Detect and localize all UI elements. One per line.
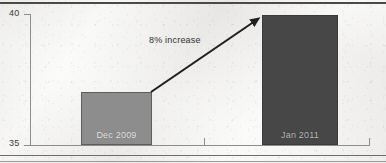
bar-label-jan-2011: Jan 2011 xyxy=(263,130,337,140)
annotation-increase-label: 8% increase xyxy=(149,35,201,45)
x-axis-tick-middle xyxy=(204,138,205,146)
chart-screenshot: 40 35 Dec 2009 Jan 2011 8% increase xyxy=(0,0,386,163)
y-axis-label-min: 35 xyxy=(9,138,19,148)
y-axis-line xyxy=(30,14,31,146)
bar-dec-2009: Dec 2009 xyxy=(81,92,152,145)
x-axis-tick-end xyxy=(369,138,370,146)
x-axis-tick-start xyxy=(30,138,31,146)
y-axis-tick-top xyxy=(24,14,31,15)
y-axis-label-max: 40 xyxy=(9,8,19,18)
bottom-horizontal-rule xyxy=(0,155,386,156)
bottom-horizontal-rule-secondary xyxy=(0,161,386,162)
x-axis-line xyxy=(30,145,370,146)
bar-label-dec-2009: Dec 2009 xyxy=(82,130,151,140)
bar-jan-2011: Jan 2011 xyxy=(262,15,338,145)
top-horizontal-rule xyxy=(0,2,386,4)
